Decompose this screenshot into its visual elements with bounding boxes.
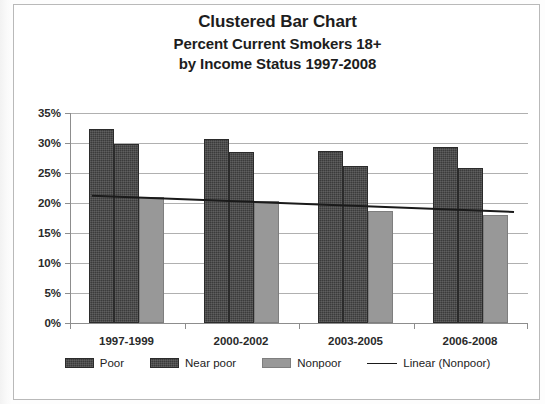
legend-item-near-poor[interactable]: Near poor <box>150 357 236 369</box>
y-axis-label: 5% <box>44 287 61 299</box>
trendline-linear-nonpoor <box>70 113 528 323</box>
chart-title: Clustered Bar Chart <box>14 11 541 34</box>
x-axis-tick <box>70 323 71 329</box>
y-axis-label: 35% <box>38 107 61 119</box>
x-axis-label: 2003-2005 <box>328 335 383 347</box>
legend-swatch-icon <box>367 363 397 364</box>
legend-swatch-icon <box>150 358 179 368</box>
x-axis-tick <box>185 323 186 329</box>
legend-label: Linear (Nonpoor) <box>403 357 490 369</box>
x-axis-label: 2000-2002 <box>214 335 269 347</box>
legend-swatch-icon <box>262 358 291 368</box>
x-axis-label: 1997-1999 <box>99 335 154 347</box>
legend-item-nonpoor[interactable]: Nonpoor <box>262 357 341 369</box>
plot-area: 0%5%10%15%20%25%30%35% 1997-19992000-200… <box>70 113 528 323</box>
y-axis-label: 30% <box>38 137 61 149</box>
legend-label: Near poor <box>185 357 236 369</box>
y-axis-label: 25% <box>38 167 61 179</box>
chart-legend: PoorNear poorNonpoorLinear (Nonpoor) <box>14 357 541 369</box>
x-axis-tick <box>299 323 300 329</box>
y-axis-label: 0% <box>44 317 61 329</box>
chart-title-block: Clustered Bar Chart Percent Current Smok… <box>14 11 541 74</box>
legend-swatch-icon <box>65 358 94 368</box>
y-axis-label: 10% <box>38 257 61 269</box>
legend-item-linear-nonpoor[interactable]: Linear (Nonpoor) <box>367 357 490 369</box>
legend-label: Poor <box>100 357 124 369</box>
x-axis-label: 2006-2008 <box>443 335 498 347</box>
x-axis-tick <box>414 323 415 329</box>
scanned-page: Clustered Bar Chart Percent Current Smok… <box>0 0 545 404</box>
y-axis-label: 15% <box>38 227 61 239</box>
legend-item-poor[interactable]: Poor <box>65 357 124 369</box>
y-axis-label: 20% <box>38 197 61 209</box>
chart-subtitle-1: Percent Current Smokers 18+ <box>14 34 541 54</box>
chart-subtitle-2: by Income Status 1997-2008 <box>14 54 541 74</box>
chart-container: Clustered Bar Chart Percent Current Smok… <box>13 4 540 400</box>
x-axis-tick <box>527 323 528 329</box>
legend-label: Nonpoor <box>297 357 341 369</box>
